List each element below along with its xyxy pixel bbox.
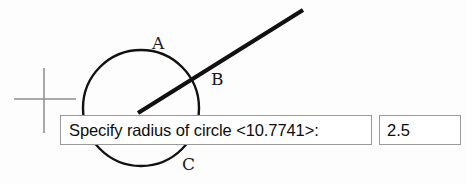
circle-preview [83,50,199,166]
command-prompt-box: Specify radius of circle <10.7741>: [60,115,372,145]
radius-rubber-band-line [138,10,303,113]
radius-value-text[interactable]: 2.5 [387,122,410,139]
geometry-label-b: B [211,71,224,88]
radius-value-field[interactable]: 2.5 [379,115,461,145]
geometry-label-c: C [182,156,195,173]
geometry-label-a: A [152,35,164,52]
dynamic-input-row: Specify radius of circle <10.7741>: 2.5 [60,115,461,145]
cad-drawing-canvas[interactable]: A B C Specify radius of circle <10.7741>… [0,0,467,185]
command-prompt-label: Specify radius of circle <10.7741>: [69,122,319,139]
drawing-vector-layer [0,0,467,185]
